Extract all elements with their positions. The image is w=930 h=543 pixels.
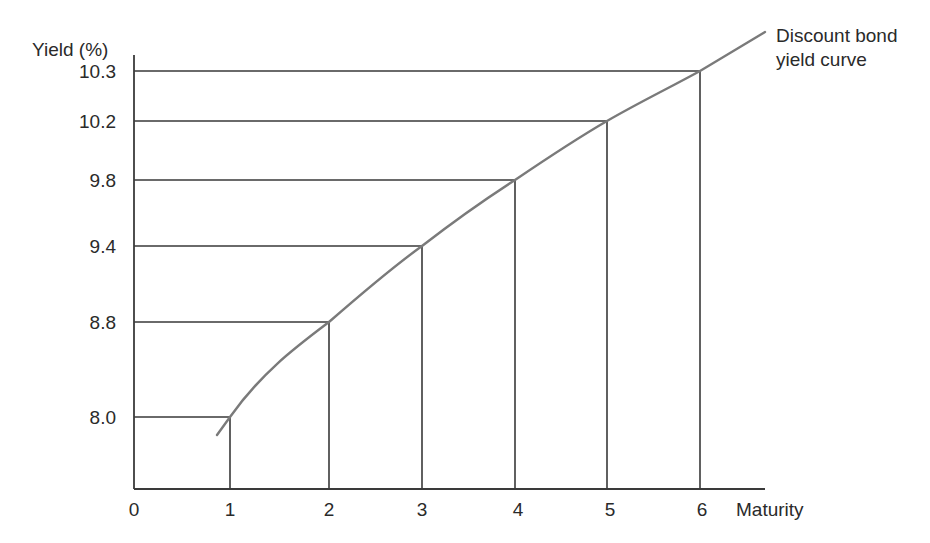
yield-curve-line: [217, 32, 765, 435]
ref-line-year-4: [134, 180, 515, 489]
y-tick-label: 10.2: [56, 112, 116, 131]
yield-curve-chart: [0, 0, 930, 543]
ref-line-year-3: [134, 246, 422, 489]
y-tick-label: 9.8: [56, 171, 116, 190]
x-tick-label: 2: [319, 500, 339, 519]
y-axis-title: Yield (%): [32, 40, 108, 59]
x-tick-label: 1: [220, 500, 240, 519]
ref-line-year-6: [134, 71, 700, 489]
x-tick-label: 6: [692, 500, 712, 519]
x-tick-label: 4: [508, 500, 528, 519]
y-tick-label: 8.8: [56, 313, 116, 332]
y-tick-label: 8.0: [56, 408, 116, 427]
reference-lines: [134, 71, 700, 489]
x-tick-label: 0: [124, 500, 144, 519]
curve-label-line-1: Discount bond: [776, 24, 897, 48]
x-axis-title: Maturity: [736, 500, 804, 519]
curve-label: Discount bond yield curve: [776, 24, 897, 72]
curve-label-line-2: yield curve: [776, 48, 897, 72]
ref-line-year-2: [134, 322, 329, 489]
ref-line-year-1: [134, 417, 230, 489]
x-tick-label: 5: [600, 500, 620, 519]
y-tick-label: 9.4: [56, 237, 116, 256]
ref-line-year-5: [134, 121, 607, 489]
y-tick-label: 10.3: [56, 62, 116, 81]
x-tick-label: 3: [412, 500, 432, 519]
